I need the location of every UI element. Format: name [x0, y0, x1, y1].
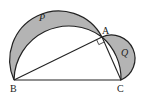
label-p: P: [38, 12, 45, 23]
geometry-diagram: P Q A B C: [0, 0, 147, 97]
label-b: B: [10, 83, 17, 94]
diagram-canvas: P Q A B C: [0, 0, 147, 97]
lune-p-region: [10, 11, 102, 80]
label-a: A: [102, 25, 110, 36]
label-c: C: [117, 83, 124, 94]
label-q: Q: [121, 47, 129, 58]
